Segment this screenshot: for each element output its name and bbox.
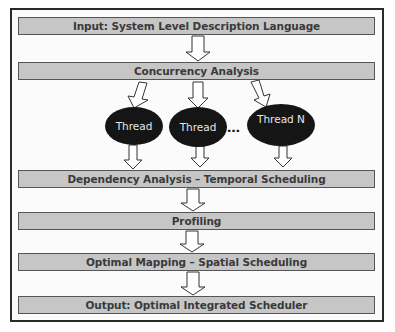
step-optimal-mapping-box: Optimal Mapping – Spatial Scheduling: [18, 253, 375, 271]
step-output-box: Output: Optimal Integrated Scheduler: [18, 296, 375, 314]
thread-node-2: Thread: [169, 107, 227, 147]
thread-label: Thread N: [257, 113, 305, 125]
step-concurrency-analysis-box: Concurrency Analysis: [18, 62, 375, 80]
thread-node-n: Thread N: [247, 104, 315, 146]
thread-label: Thread: [116, 120, 153, 132]
thread-label: Thread: [180, 121, 217, 133]
diagram-frame: [10, 8, 384, 322]
thread-node-1: Thread: [105, 107, 163, 145]
step-dependency-analysis-box: Dependency Analysis – Temporal Schedulin…: [18, 170, 375, 188]
step-input-box: Input: System Level Description Language: [18, 17, 375, 35]
ellipsis-separator: …: [227, 120, 241, 135]
step-profiling-box: Profiling: [18, 212, 375, 230]
